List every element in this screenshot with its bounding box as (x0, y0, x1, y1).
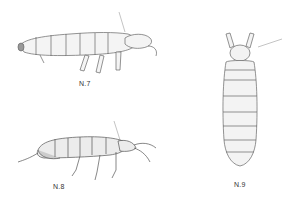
specimen-plate: N.7 N.8 N.9 (0, 0, 292, 203)
illustration-layer (0, 0, 292, 203)
n7-head (125, 34, 152, 48)
specimen-label-n8: N.8 (53, 183, 65, 190)
n7-antenna (148, 46, 157, 56)
n7-leg (116, 52, 121, 70)
n7-leg (96, 55, 104, 73)
n8-antenna (134, 148, 150, 162)
n7-leg (80, 55, 89, 71)
specimen-n9-drawing (223, 33, 282, 166)
n8-leg (72, 156, 80, 176)
specimen-label-n7: N.7 (79, 80, 91, 87)
n9-head (230, 45, 250, 61)
specimen-label-n9: N.9 (234, 181, 246, 188)
specimen-n8-drawing (18, 121, 156, 180)
n9-antenna (226, 33, 234, 48)
n8-arrow (114, 121, 120, 140)
n8-leg (95, 155, 100, 180)
n8-furca (18, 153, 38, 162)
n9-body (223, 61, 257, 167)
n9-antenna (246, 33, 254, 48)
n7-arrow (119, 12, 125, 32)
specimen-n7-drawing (18, 12, 157, 73)
n9-arrow (258, 39, 282, 47)
n8-antenna (134, 143, 156, 148)
n8-leg (112, 152, 116, 178)
n8-head (118, 140, 136, 151)
